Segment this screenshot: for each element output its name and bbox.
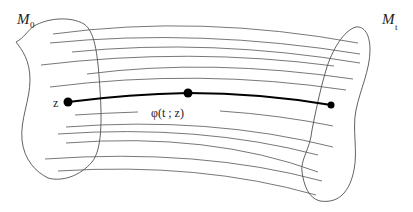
flow-line xyxy=(41,56,334,66)
label-trajectory: φ(t ; z) xyxy=(151,106,184,120)
flow-line xyxy=(75,112,138,115)
start-point-z xyxy=(64,98,73,107)
flow-line xyxy=(72,47,360,63)
trajectory-endpoint xyxy=(328,102,335,109)
flow-line xyxy=(53,26,358,43)
flow-line xyxy=(87,67,353,79)
label-m0-main: M xyxy=(16,11,31,27)
flow-line xyxy=(220,111,333,126)
flow-line xyxy=(50,78,346,90)
region-mt-outline xyxy=(302,27,370,201)
label-m0-sub: 0 xyxy=(30,20,35,30)
trajectory-curve xyxy=(68,93,331,105)
flow-line xyxy=(66,124,333,147)
label-z: z xyxy=(53,96,58,110)
label-mt-main: M xyxy=(381,11,396,27)
label-mt-sub: t xyxy=(395,22,398,32)
flow-line xyxy=(58,169,316,195)
trajectory-midpoint xyxy=(184,89,193,98)
flow-diagram: M 0 M t z φ(t ; z) xyxy=(0,0,413,212)
